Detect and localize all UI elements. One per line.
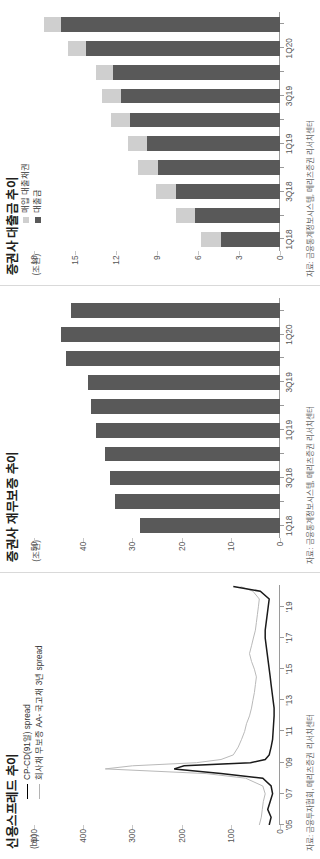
- bar: [138, 160, 280, 175]
- y-axis: 0100200300400500: [34, 825, 280, 857]
- y-axis: 01020304050: [34, 538, 280, 570]
- x-axis-tick-label: 3Q19: [284, 86, 294, 106]
- y-axis-tick-mark: [231, 825, 232, 829]
- y-axis-tick-mark: [83, 538, 84, 542]
- x-axis-tick-mark: [280, 405, 284, 406]
- plot-area-credit-spread: 0100200300400500'05'07'09'11'13'15'17'19: [34, 585, 280, 825]
- y-axis-tick-label: 9: [152, 255, 162, 260]
- legend-label: 매입 대출채권: [20, 163, 32, 213]
- legend: CP-CD(91일) spread 회사채 무보증 AA- 국고채 3년 spr…: [22, 645, 46, 799]
- panel-title: 증권사 재무보증 추이: [7, 296, 21, 561]
- x-axis-tick-label: 1Q19: [284, 420, 294, 440]
- bar-segment: [201, 232, 222, 247]
- x-axis-tick-mark: [280, 215, 284, 216]
- x-axis-tick-label: 1Q20: [284, 324, 294, 344]
- x-axis-tick-label: 3Q19: [284, 372, 294, 392]
- x-axis-tick-mark: [280, 501, 284, 502]
- legend-item-cp-cd: CP-CD(91일) spread: [22, 645, 34, 799]
- x-axis-tick-label: '19: [284, 601, 294, 612]
- bar-segment: [110, 471, 280, 486]
- x-axis-tick-label: '15: [284, 664, 294, 675]
- bar-segment: [88, 375, 280, 390]
- bar: [44, 17, 280, 32]
- x-axis: '05'07'09'11'13'15'17'19: [280, 585, 300, 825]
- plot-area-securities-loans: 03691215181Q183Q181Q193Q191Q20: [34, 12, 280, 251]
- bar: [61, 327, 280, 342]
- bar: [66, 351, 280, 366]
- y-axis-tick-mark: [116, 251, 117, 255]
- x-axis-tick-label: 1Q18: [284, 229, 294, 249]
- y-axis-tick-mark: [280, 538, 281, 542]
- bar-segment: [156, 184, 177, 199]
- bar: [68, 41, 280, 56]
- y-axis-tick-label: 18: [29, 255, 39, 264]
- bar-segment: [102, 89, 121, 104]
- y-axis-tick-mark: [182, 825, 183, 829]
- y-axis-tick-label: 200: [177, 829, 187, 843]
- legend-item-loans: 대출금: [32, 163, 44, 223]
- x-axis-tick-label: '11: [284, 726, 294, 736]
- y-axis-tick-label: 12: [111, 255, 121, 264]
- figure-canvas: 신용스프레드 추이 (bp) CP-CD(91일) spread 회사채 무보증…: [0, 0, 320, 859]
- y-axis-tick-mark: [182, 538, 183, 542]
- panel-credit-spread: 신용스프레드 추이 (bp) CP-CD(91일) spread 회사채 무보증…: [0, 573, 320, 859]
- bar-segment: [86, 41, 280, 56]
- legend-label: 대출금: [32, 189, 44, 213]
- bar: [71, 303, 280, 318]
- legend-label: CP-CD(91일) spread: [22, 704, 34, 780]
- y-axis-tick-label: 6: [193, 255, 203, 260]
- x-axis-tick-label: '07: [284, 788, 294, 799]
- x-axis-tick-mark: [280, 23, 284, 24]
- panel-securities-loans: 증권사 대출금 추이 (조원) 매입 대출채권 대출금 03691215181Q…: [0, 0, 320, 286]
- source-note: 자료: 금융통계정보시스템, 메리츠증권 리서치센터: [304, 406, 315, 564]
- bar-segment: [147, 136, 280, 151]
- bar-segment: [128, 136, 147, 151]
- bar: [105, 447, 280, 462]
- x-axis-tick-mark: [280, 453, 284, 454]
- bar-segment: [44, 17, 62, 32]
- bar: [110, 471, 280, 486]
- x-axis-tick-label: 1Q19: [284, 134, 294, 154]
- panel-financial-guarantee: 증권사 재무보증 추이 (조원) 010203040501Q183Q181Q19…: [0, 286, 320, 572]
- x-axis-tick-label: 3Q18: [284, 468, 294, 488]
- three-panel-figure: 신용스프레드 추이 (bp) CP-CD(91일) spread 회사채 무보증…: [0, 0, 320, 859]
- bar-segment: [111, 113, 130, 128]
- bar-series-group: [34, 298, 280, 537]
- bar: [96, 65, 281, 80]
- source-note: 자료: 금융통계정보시스템, 메리츠증권 리서치센터: [304, 120, 315, 278]
- x-axis: 1Q183Q181Q193Q191Q20: [280, 12, 300, 251]
- bar-segment: [105, 447, 280, 462]
- y-axis-tick-mark: [198, 251, 199, 255]
- bar: [128, 136, 280, 151]
- x-axis-tick-label: '09: [284, 757, 294, 768]
- legend-line-icon: [27, 784, 28, 799]
- bar-segment: [96, 65, 114, 80]
- bar: [91, 399, 280, 414]
- y-axis-tick-label: 40: [78, 542, 88, 551]
- y-axis-tick-label: 400: [78, 829, 88, 843]
- y-axis-tick-mark: [132, 538, 133, 542]
- x-axis-tick-mark: [280, 119, 284, 120]
- y-axis-tick-label: 15: [70, 255, 80, 264]
- bar-segment: [176, 184, 280, 199]
- y-axis-tick-label: 50: [29, 542, 39, 551]
- line-series: [105, 587, 265, 825]
- y-axis-tick-mark: [75, 251, 76, 255]
- y-axis-tick-label: 500: [29, 829, 39, 843]
- legend-item-purchased-loan-receivables: 매입 대출채권: [20, 163, 32, 223]
- legend-swatch-icon: [35, 217, 41, 223]
- plot-area-financial-guarantee: 010203040501Q183Q181Q193Q191Q20: [34, 298, 280, 537]
- legend-swatch-icon: [23, 217, 29, 223]
- bar-segment: [66, 351, 280, 366]
- y-axis-tick-mark: [132, 825, 133, 829]
- bar-segment: [68, 41, 86, 56]
- source-note: 자료: 금융투자협회, 메리츠증권 리서치센터: [304, 714, 315, 851]
- panel-title: 신용스프레드 추이: [7, 583, 21, 849]
- bar-segment: [113, 65, 280, 80]
- bar-series-group: [34, 12, 280, 251]
- bar-segment: [195, 208, 280, 223]
- bar-segment: [71, 303, 280, 318]
- bar-segment: [61, 17, 280, 32]
- bar: [156, 184, 280, 199]
- y-axis-tick-label: 300: [127, 829, 137, 843]
